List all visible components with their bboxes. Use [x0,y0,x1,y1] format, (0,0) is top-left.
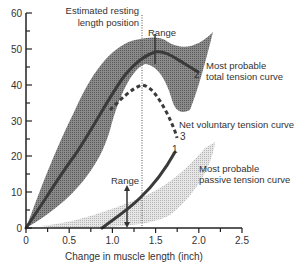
y-tick-label: 20 [11,151,23,162]
total-curve-label: Most probable [206,60,266,71]
x-tick-label: 2.0 [192,235,206,246]
resting-length-label: Estimated resting [66,5,139,16]
y-tick-label: 60 [11,8,23,19]
x-axis-label: Change in muscle length (inch) [65,251,203,262]
y-tick-label: 30 [11,116,23,127]
x-tick-label: 1.0 [105,235,119,246]
passive-curve-number: 1 [172,144,178,155]
x-tick-label: 0 [23,235,29,246]
y-tick-label: 0 [16,223,22,234]
x-tick-label: 0.5 [62,235,76,246]
total-curve-number: 2 [194,69,200,80]
y-tick-label: 10 [11,187,23,198]
range-label-bottom: Range [111,175,139,186]
y-tick-label: 50 [11,44,23,55]
total-curve-label: total tension curve [206,71,283,82]
y-ticks [26,13,32,228]
net-curve-number: 3 [180,131,186,142]
range-label-top: Range [148,27,176,38]
resting-length-label: length position [78,17,139,28]
y-tick-label: 40 [11,80,23,91]
net-curve-label: Net voluntary tension curve [179,119,294,130]
passive-curve-label: passive tension curve [199,174,290,185]
x-tick-label: 2.5 [235,235,249,246]
x-tick-label: 1.5 [149,235,163,246]
passive-curve-label: Most probable [199,163,259,174]
muscle-tension-chart: 0 10 20 30 40 50 60 0 0.5 1.0 1.5 2.0 2.… [0,0,296,266]
